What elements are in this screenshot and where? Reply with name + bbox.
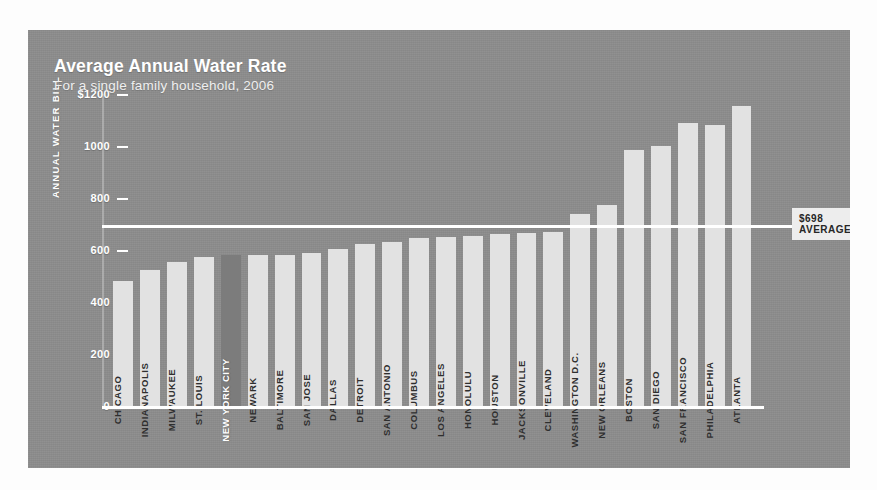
- plot-area: ANNUAL WATER BILL $120010008006004002000…: [110, 94, 755, 406]
- bar-los-angeles[interactable]: LOS ANGELES: [436, 237, 456, 406]
- average-line: [102, 225, 774, 228]
- bar-label: SAN JOSE: [301, 374, 312, 426]
- bar-label: LOS ANGELES: [435, 363, 446, 437]
- bar-cleveland[interactable]: CLEVELAND: [543, 232, 563, 406]
- y-tick-400: 400: [90, 296, 110, 308]
- bar-san-diego[interactable]: SAN DIEGO: [651, 146, 671, 406]
- bar-chicago[interactable]: CHICAGO: [113, 281, 133, 406]
- bar-label: INDIANAPOLIS: [139, 363, 150, 438]
- bar-label: COLUMBUS: [408, 370, 419, 429]
- y-tick-1000: 1000: [84, 140, 110, 152]
- chart-subtitle: For a single family household, 2006: [54, 78, 287, 93]
- bar-label: BALTIMORE: [274, 370, 285, 431]
- bar-label: NEWARK: [247, 377, 258, 423]
- bar-columbus[interactable]: COLUMBUS: [409, 238, 429, 406]
- chart-page: Average Annual Water Rate For a single f…: [0, 0, 877, 490]
- bar-label: SAN ANTONIO: [381, 364, 392, 436]
- bar-label: WASHINGTON D.C.: [569, 352, 580, 447]
- bar-new-orleans[interactable]: NEW ORLEANS: [597, 205, 617, 407]
- bar-philadelphia[interactable]: PHILADELPHIA: [705, 125, 725, 406]
- source-note: Source: NYC Water Board: [625, 466, 761, 468]
- bar-houston[interactable]: HOUSTON: [490, 234, 510, 406]
- bar-boston[interactable]: BOSTON: [624, 150, 644, 406]
- bar-label: HONOLULU: [462, 371, 473, 429]
- y-tick-600: 600: [90, 244, 110, 256]
- bar-label: DETROIT: [354, 377, 365, 423]
- bar-label: CHICAGO: [112, 376, 123, 425]
- average-caption: AVERAGE: [799, 224, 850, 236]
- bar-baltimore[interactable]: BALTIMORE: [275, 255, 295, 406]
- bar-series: CHICAGOINDIANAPOLISMILWAUKEEST. LOUISNEW…: [110, 94, 755, 406]
- average-value: $698: [799, 213, 850, 225]
- bar-label: JACKSONVILLE: [516, 360, 527, 440]
- bar-label: SAN DIEGO: [650, 371, 661, 429]
- bar-san-jose[interactable]: SAN JOSE: [302, 253, 322, 406]
- bar-newark[interactable]: NEWARK: [248, 255, 268, 406]
- page-title: Average Annual Water Rate: [54, 56, 287, 76]
- bar-label: SAN FRANCISCO: [677, 357, 688, 443]
- bar-st-louis[interactable]: ST. LOUIS: [194, 257, 214, 407]
- bar-label: ATLANTA: [731, 376, 742, 423]
- bar-indianapolis[interactable]: INDIANAPOLIS: [140, 270, 160, 407]
- x-axis-baseline: [102, 406, 764, 409]
- bar-san-francisco[interactable]: SAN FRANCISCO: [678, 123, 698, 406]
- bar-milwaukee[interactable]: MILWAUKEE: [167, 262, 187, 406]
- bar-label: BOSTON: [623, 378, 634, 422]
- bar-label: PHILADELPHIA: [704, 362, 715, 439]
- y-axis-title: ANNUAL WATER BILL: [50, 76, 61, 198]
- bar-san-antonio[interactable]: SAN ANTONIO: [382, 242, 402, 406]
- title-block: Average Annual Water Rate For a single f…: [54, 56, 287, 93]
- bar-label: MILWAUKEE: [166, 369, 177, 431]
- bar-washington-d-c[interactable]: WASHINGTON D.C.: [570, 214, 590, 406]
- bar-dallas[interactable]: DALLAS: [328, 249, 348, 406]
- bar-jacksonville[interactable]: JACKSONVILLE: [517, 233, 537, 406]
- bar-label: NEW YORK CITY: [220, 358, 231, 442]
- bar-honolulu[interactable]: HONOLULU: [463, 236, 483, 406]
- average-callout: $698 AVERAGE: [792, 208, 850, 241]
- bar-detroit[interactable]: DETROIT: [355, 244, 375, 407]
- bar-label: CLEVELAND: [542, 368, 553, 431]
- bar-atlanta[interactable]: ATLANTA: [732, 106, 752, 406]
- bar-new-york-city[interactable]: NEW YORK CITY: [221, 255, 241, 406]
- y-tick-800: 800: [90, 192, 110, 204]
- bar-label: NEW ORLEANS: [596, 361, 607, 438]
- chart-panel: Average Annual Water Rate For a single f…: [28, 30, 850, 468]
- bar-label: ST. LOUIS: [193, 375, 204, 425]
- y-tick-200: 200: [90, 348, 110, 360]
- average-connector: [764, 225, 792, 228]
- bar-label: DALLAS: [327, 379, 338, 421]
- bar-label: HOUSTON: [489, 374, 500, 425]
